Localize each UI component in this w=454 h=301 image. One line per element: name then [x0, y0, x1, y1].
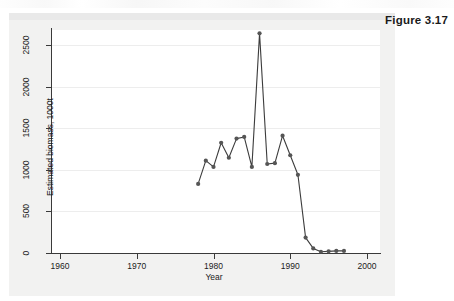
data-point — [234, 137, 238, 141]
data-point — [304, 236, 308, 240]
data-point — [242, 135, 246, 139]
data-point — [211, 165, 215, 169]
data-point — [250, 165, 254, 169]
data-point — [273, 161, 277, 165]
data-series-line — [0, 0, 454, 301]
data-point — [196, 182, 200, 186]
data-point — [327, 249, 331, 253]
biomass-line-chart: 05001000150020002500 1960197019801990200… — [0, 0, 454, 301]
data-point — [311, 246, 315, 250]
data-point — [227, 156, 231, 160]
data-point — [288, 153, 292, 157]
data-point — [204, 159, 208, 163]
data-point — [342, 249, 346, 253]
data-point — [219, 141, 223, 145]
data-point — [334, 249, 338, 253]
data-point — [265, 162, 269, 166]
data-point — [280, 134, 284, 138]
data-point — [296, 173, 300, 177]
data-point — [257, 31, 261, 35]
data-point — [319, 250, 323, 254]
